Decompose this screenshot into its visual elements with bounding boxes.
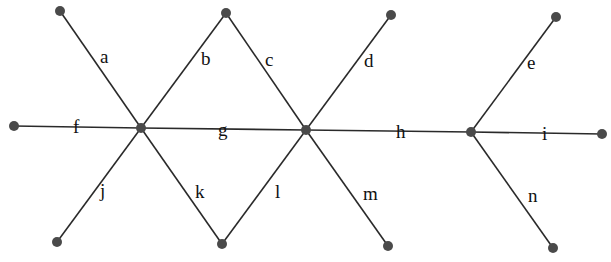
node-h1 (136, 123, 146, 133)
node-f (9, 121, 19, 131)
edge-label-b: b (201, 48, 211, 69)
nodes-group (9, 6, 607, 253)
edge-label-d: d (364, 50, 374, 71)
edge-n (471, 132, 553, 248)
edge-label-h: h (396, 121, 406, 142)
node-n (548, 243, 558, 253)
node-j (52, 237, 62, 247)
edge-b (141, 13, 226, 128)
edge-i (471, 132, 602, 134)
node-a (55, 6, 65, 16)
edge-a (60, 11, 141, 128)
node-c (386, 10, 396, 20)
graph-diagram: abcdefghijklmn (0, 0, 611, 262)
node-h2 (301, 125, 311, 135)
edge-d (306, 15, 391, 130)
edge-label-l: l (275, 181, 280, 202)
node-k (217, 239, 227, 249)
node-d (551, 12, 561, 22)
node-b (221, 8, 231, 18)
edge-e (471, 17, 556, 132)
edge-label-j: j (99, 180, 105, 201)
node-m (383, 241, 393, 251)
edge-k (141, 128, 222, 244)
edge-label-m: m (363, 183, 378, 204)
edge-label-g: g (218, 119, 228, 140)
edge-label-f: f (73, 116, 80, 137)
edge-label-k: k (195, 181, 205, 202)
edge-l (222, 130, 306, 244)
edge-j (57, 128, 141, 242)
edge-label-i: i (542, 123, 547, 144)
edge-label-e: e (527, 52, 535, 73)
edge-c (226, 13, 306, 130)
node-h3 (466, 127, 476, 137)
edge-label-n: n (528, 185, 538, 206)
edge-label-c: c (265, 49, 273, 70)
edge-h (306, 130, 471, 132)
node-i (597, 129, 607, 139)
edge-label-a: a (100, 46, 109, 67)
